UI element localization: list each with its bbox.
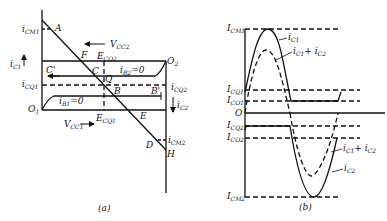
label-b-icm1: ICM1 [226, 23, 245, 34]
label-b-icm2: ICM2 [226, 191, 245, 202]
label-b-zero: O [235, 108, 243, 118]
point-h: H [166, 149, 175, 159]
point-o2: O2 [167, 56, 178, 67]
point-c: C [92, 66, 99, 76]
curve-label-ic2: iC2 [344, 163, 355, 174]
label-icq2: iCQ2 [171, 82, 187, 93]
point-c-prime: C' [46, 65, 55, 75]
label-ib1-zero: iB1=0 [59, 96, 84, 107]
label-icq1: iCQ1 [22, 79, 38, 90]
caption-a: (a) [98, 203, 111, 213]
leader-sum-upper [276, 52, 292, 60]
curve-label-sum-lower: iC1+ iC2 [343, 143, 376, 154]
label-icm2: iCM2 [168, 135, 186, 146]
panel-a-labels: A F C C' Q B B' E D H O1 O2 iCM1 iC1 iCQ… [10, 23, 188, 213]
label-ecq2: ECQ2 [96, 51, 117, 62]
label-b-icq2: ICQ2 [226, 120, 244, 131]
point-a: A [54, 23, 62, 33]
label-vcc1: VCC1 [64, 119, 84, 130]
ic1-plus-ic2-curve-lower [290, 113, 338, 176]
point-d: D [145, 140, 153, 150]
point-o1: O1 [28, 104, 39, 115]
label-icm1: iCM1 [22, 24, 39, 35]
point-f: F [80, 50, 88, 60]
label-vcc2: VCC2 [110, 39, 130, 50]
label-b-icq1: ICQ1 [226, 84, 244, 95]
point-b: B [113, 86, 121, 96]
point-b-prime: B' [150, 86, 160, 96]
label-b-ico2: ICO2 [226, 132, 244, 143]
curve-label-sum-upper: iC1+ iC2 [293, 46, 326, 57]
caption-b: (b) [299, 202, 312, 212]
label-ic2: iC2 [177, 100, 188, 111]
leader-ic1 [279, 38, 287, 40]
ic2-curve [245, 126, 337, 197]
point-q: Q [105, 74, 113, 84]
label-b-ico1: ICO1 [226, 95, 244, 106]
label-ecq1: ECQ1 [95, 113, 116, 124]
leader-ic2 [332, 169, 343, 172]
leader-sum-lower [331, 149, 342, 152]
push-pull-amplifier-figure: A F C C' Q B B' E D H O1 O2 iCM1 iC1 iCQ… [0, 0, 387, 221]
point-e: E [139, 111, 147, 121]
panel-b-labels: ICM1 ICQ1 ICO1 O ICQ2 ICO2 ICM2 iC1 iC1+… [226, 23, 376, 212]
panel-a [24, 10, 173, 193]
label-ic1: iC1 [10, 59, 21, 70]
curve-label-ic1: iC1 [288, 32, 299, 43]
label-ib2-zero: iB2=0 [120, 65, 145, 76]
